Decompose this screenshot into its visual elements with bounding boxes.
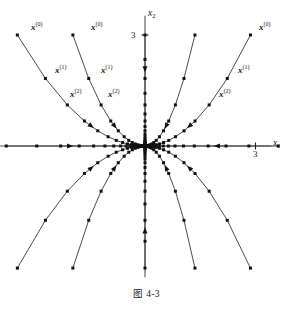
iterate-point bbox=[144, 34, 147, 37]
iterate-point bbox=[83, 172, 86, 175]
iterate-point bbox=[144, 202, 147, 205]
iterate-point bbox=[44, 219, 47, 222]
iterate-point bbox=[226, 77, 229, 80]
point-label-x2-q2-outer: x(2) bbox=[70, 90, 82, 99]
iterate-point bbox=[109, 172, 112, 175]
iterate-point bbox=[167, 139, 170, 142]
iterate-point bbox=[71, 267, 74, 270]
trajectory bbox=[5, 144, 146, 149]
iterate-point bbox=[115, 139, 118, 142]
direction-arrowhead bbox=[164, 122, 169, 129]
iterate-point bbox=[144, 145, 147, 148]
iterate-point bbox=[193, 267, 196, 270]
x-tick-label-3: 3 bbox=[253, 150, 258, 159]
iterate-point bbox=[208, 103, 211, 106]
trajectory-path bbox=[145, 35, 195, 146]
iterate-point bbox=[167, 120, 170, 123]
phase-portrait-plot bbox=[0, 0, 293, 319]
trajectory bbox=[144, 34, 252, 148]
iterate-point bbox=[144, 133, 147, 136]
iterate-point bbox=[144, 267, 147, 270]
direction-arrowhead bbox=[143, 227, 148, 233]
iterate-point bbox=[144, 58, 147, 61]
iterate-point bbox=[144, 112, 147, 115]
iterate-point bbox=[35, 145, 38, 148]
iterate-point bbox=[193, 34, 196, 37]
iterate-point bbox=[249, 267, 252, 270]
iterate-point bbox=[96, 161, 99, 164]
iterate-point bbox=[124, 145, 127, 148]
iterate-point bbox=[127, 151, 130, 154]
iterate-point bbox=[183, 161, 186, 164]
iterate-point bbox=[100, 103, 103, 106]
iterate-point bbox=[194, 120, 197, 123]
iterate-point bbox=[158, 155, 161, 158]
iterate-point bbox=[96, 129, 99, 132]
trajectory bbox=[144, 145, 252, 270]
trajectory-path bbox=[73, 146, 145, 268]
trajectory bbox=[144, 34, 197, 148]
point-label-x0-q2-inner: x(0) bbox=[91, 23, 103, 32]
iterate-point bbox=[87, 77, 90, 80]
iterate-point bbox=[119, 145, 122, 148]
iterate-point bbox=[71, 34, 74, 37]
iterate-point bbox=[144, 180, 147, 183]
iterate-point bbox=[174, 155, 177, 158]
iterate-point bbox=[100, 190, 103, 193]
iterate-point bbox=[207, 145, 210, 148]
iterate-point bbox=[112, 145, 115, 148]
iterate-point bbox=[103, 145, 106, 148]
iterate-point bbox=[66, 190, 69, 193]
iterate-point bbox=[182, 145, 185, 148]
point-label-x0-q2-outer: x(0) bbox=[31, 23, 43, 32]
iterate-point bbox=[183, 129, 186, 132]
iterate-point bbox=[78, 145, 81, 148]
iterate-point bbox=[162, 148, 165, 151]
iterate-point bbox=[92, 145, 95, 148]
iterate-point bbox=[131, 141, 134, 144]
iterate-point bbox=[144, 129, 147, 132]
direction-arrowhead bbox=[214, 144, 220, 149]
iterate-point bbox=[144, 190, 147, 193]
iterate-point bbox=[127, 139, 130, 142]
iterate-point bbox=[107, 155, 110, 158]
point-label-x2-q2-inner: x(2) bbox=[108, 90, 120, 99]
trajectory bbox=[71, 145, 146, 270]
trajectory bbox=[144, 145, 197, 270]
iterate-point bbox=[225, 145, 228, 148]
iterate-point bbox=[87, 219, 90, 222]
point-label-x1-q2-outer: x(1) bbox=[55, 66, 67, 75]
iterate-point bbox=[249, 34, 252, 37]
iterate-point bbox=[117, 161, 120, 164]
iterate-point bbox=[123, 135, 126, 138]
iterate-point bbox=[5, 145, 8, 148]
iterate-point bbox=[208, 190, 211, 193]
iterate-point bbox=[144, 158, 147, 161]
trajectory-path bbox=[17, 146, 144, 268]
iterate-point bbox=[144, 161, 147, 164]
direction-arrowhead bbox=[87, 122, 93, 128]
figure-caption: 图 4-3 bbox=[0, 286, 293, 300]
iterate-point bbox=[162, 161, 165, 164]
iterate-point bbox=[123, 155, 126, 158]
x1-axis-label: x1 bbox=[273, 139, 280, 149]
iterate-point bbox=[162, 141, 165, 144]
iterate-point bbox=[167, 145, 170, 148]
trajectory bbox=[144, 144, 280, 149]
trajectory-path bbox=[145, 35, 250, 146]
iterate-point bbox=[129, 145, 132, 148]
iterate-point bbox=[16, 267, 19, 270]
iterate-point bbox=[144, 92, 147, 95]
y-tick-label-3: 3 bbox=[131, 31, 136, 40]
trajectory bbox=[143, 34, 148, 148]
iterate-point bbox=[144, 125, 147, 128]
iterate-point bbox=[66, 103, 69, 106]
x2-axis-label: x2 bbox=[148, 9, 155, 19]
iterate-point bbox=[247, 145, 250, 148]
iterate-point bbox=[59, 145, 62, 148]
direction-arrowhead bbox=[111, 165, 117, 172]
iterate-point bbox=[182, 219, 185, 222]
iterate-point bbox=[121, 141, 124, 144]
iterate-point bbox=[115, 151, 118, 154]
iterate-point bbox=[83, 120, 86, 123]
